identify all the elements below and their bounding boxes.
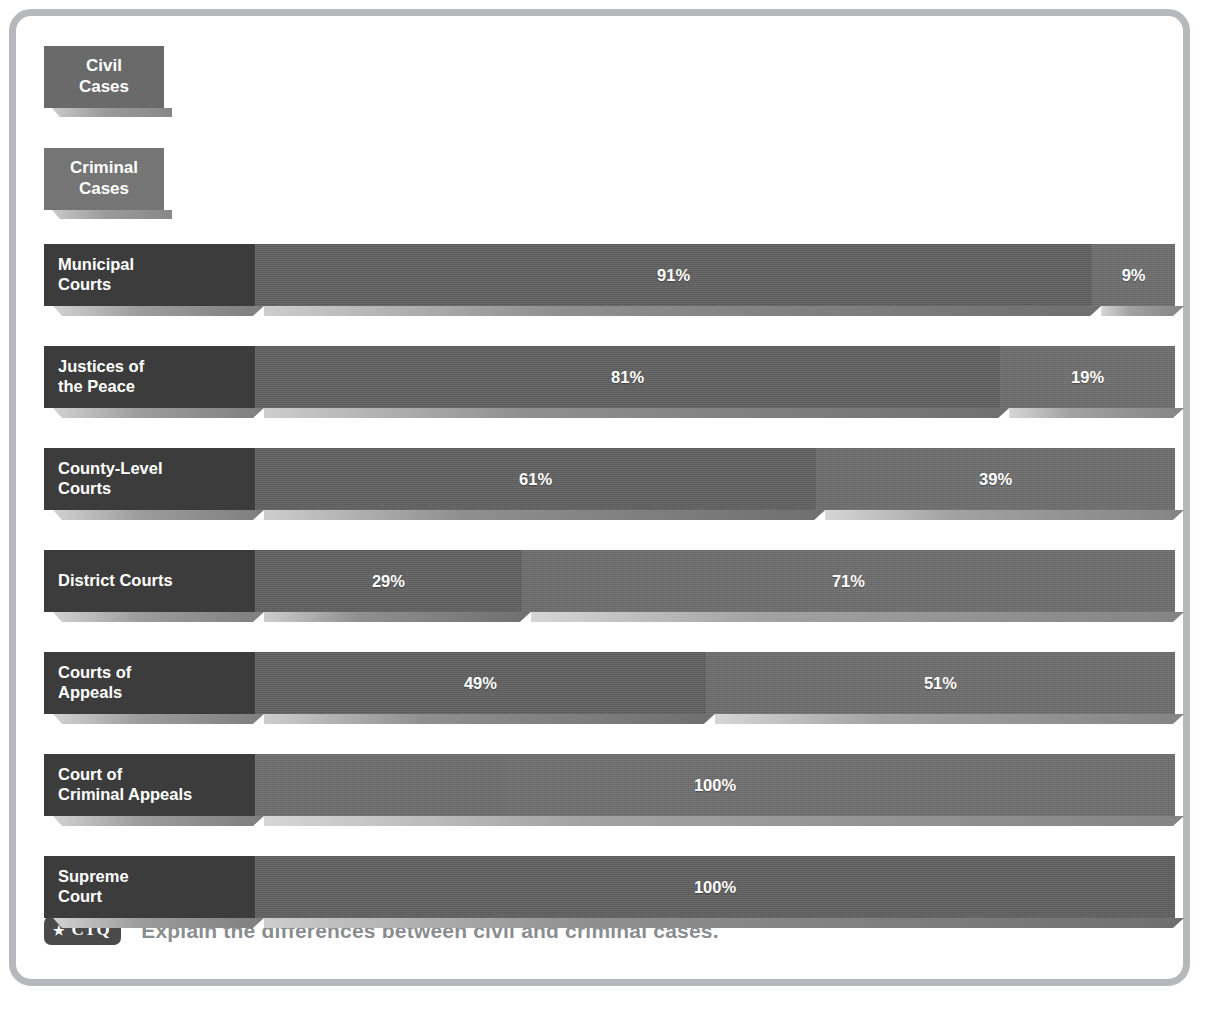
segment-value-criminal: 19% bbox=[1071, 368, 1104, 387]
bar-track: 100% bbox=[255, 856, 1175, 918]
segment-value-civil: 49% bbox=[464, 674, 497, 693]
bar-segment-criminal[interactable]: 100% bbox=[255, 754, 1175, 816]
row-label-line1: Municipal bbox=[58, 254, 255, 274]
bar-track: 29% 71% bbox=[255, 550, 1175, 612]
row-label-line2: Criminal Appeals bbox=[58, 784, 255, 804]
segment-value-criminal: 51% bbox=[924, 674, 957, 693]
segment-value-civil: 100% bbox=[694, 878, 736, 897]
row-label-line1: Supreme bbox=[58, 866, 255, 886]
bar-segment-criminal[interactable]: 19% bbox=[1000, 346, 1175, 408]
bar-track: 81% 19% bbox=[255, 346, 1175, 408]
bar-segment-criminal[interactable]: 9% bbox=[1092, 244, 1175, 306]
chart-plate: Civil Cases Criminal Cases Municipal Cou… bbox=[16, 16, 1183, 979]
row-label-line2: Appeals bbox=[58, 682, 255, 702]
bar-segment-civil[interactable]: 91% bbox=[255, 244, 1092, 306]
chart-row[interactable]: Supreme Court 100% bbox=[44, 856, 1175, 918]
row-label-line1: County-Level bbox=[58, 458, 255, 478]
chart-row[interactable]: County-Level Courts 61% 39% bbox=[44, 448, 1175, 510]
chart-row[interactable]: Municipal Courts 91% 9% bbox=[44, 244, 1175, 306]
chart-frame: Civil Cases Criminal Cases Municipal Cou… bbox=[9, 9, 1190, 986]
row-label-supreme-court: Supreme Court bbox=[44, 856, 255, 918]
bar-segment-civil[interactable]: 100% bbox=[255, 856, 1175, 918]
row-label-line1: District Courts bbox=[58, 570, 255, 590]
segment-value-civil: 61% bbox=[519, 470, 552, 489]
chart-row[interactable]: Court of Criminal Appeals 100% bbox=[44, 754, 1175, 816]
segment-value-criminal: 100% bbox=[694, 776, 736, 795]
row-label-line2: Court bbox=[58, 886, 255, 906]
segment-value-civil: 29% bbox=[372, 572, 405, 591]
segment-value-criminal: 9% bbox=[1122, 266, 1146, 285]
legend-civil-line2: Cases bbox=[44, 76, 164, 97]
row-label-line2: Courts bbox=[58, 274, 255, 294]
bar-track: 91% 9% bbox=[255, 244, 1175, 306]
bar-segment-civil[interactable]: 61% bbox=[255, 448, 816, 510]
legend-criminal-line1: Criminal bbox=[44, 157, 164, 178]
chart-row[interactable]: Courts of Appeals 49% 51% bbox=[44, 652, 1175, 714]
bar-track: 61% 39% bbox=[255, 448, 1175, 510]
bar-segment-civil[interactable]: 49% bbox=[255, 652, 706, 714]
segment-value-civil: 81% bbox=[611, 368, 644, 387]
row-label-district-courts: District Courts bbox=[44, 550, 255, 612]
bar-track: 49% 51% bbox=[255, 652, 1175, 714]
segment-value-criminal: 39% bbox=[979, 470, 1012, 489]
bar-segment-criminal[interactable]: 39% bbox=[816, 448, 1175, 510]
bar-track: 100% bbox=[255, 754, 1175, 816]
segment-value-civil: 91% bbox=[657, 266, 690, 285]
bar-segment-criminal[interactable]: 51% bbox=[706, 652, 1175, 714]
legend-item-criminal-cases[interactable]: Criminal Cases bbox=[44, 148, 164, 210]
row-label-county-level-courts: County-Level Courts bbox=[44, 448, 255, 510]
chart-row[interactable]: District Courts 29% 71% bbox=[44, 550, 1175, 612]
bar-segment-civil[interactable]: 29% bbox=[255, 550, 522, 612]
row-label-line2: the Peace bbox=[58, 376, 255, 396]
chart-row[interactable]: Justices of the Peace 81% 19% bbox=[44, 346, 1175, 408]
row-label-line1: Courts of bbox=[58, 662, 255, 682]
row-label-municipal-courts: Municipal Courts bbox=[44, 244, 255, 306]
row-label-courts-of-appeals: Courts of Appeals bbox=[44, 652, 255, 714]
row-label-justices-of-the-peace: Justices of the Peace bbox=[44, 346, 255, 408]
row-label-line2: Courts bbox=[58, 478, 255, 498]
row-label-court-of-criminal-appeals: Court of Criminal Appeals bbox=[44, 754, 255, 816]
segment-value-criminal: 71% bbox=[832, 572, 865, 591]
legend-civil-line1: Civil bbox=[44, 55, 164, 76]
legend-criminal-line2: Cases bbox=[44, 178, 164, 199]
row-label-line1: Court of bbox=[58, 764, 255, 784]
row-label-line1: Justices of bbox=[58, 356, 255, 376]
bar-segment-civil[interactable]: 81% bbox=[255, 346, 1000, 408]
legend-item-civil-cases[interactable]: Civil Cases bbox=[44, 46, 164, 108]
bar-segment-criminal[interactable]: 71% bbox=[522, 550, 1175, 612]
